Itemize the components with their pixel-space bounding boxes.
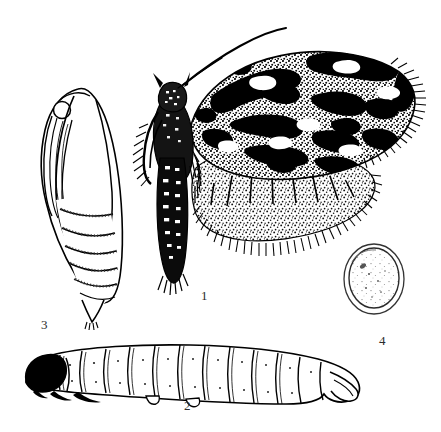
figure-label-3: 3 xyxy=(41,318,48,331)
plate-artwork xyxy=(0,0,441,432)
figure-label-1: 1 xyxy=(201,289,208,302)
figure-label-4: 4 xyxy=(379,334,386,347)
figure-egg xyxy=(344,244,404,314)
figure-label-2: 2 xyxy=(184,399,191,412)
illustration-plate: 1 2 3 4 xyxy=(0,0,441,432)
